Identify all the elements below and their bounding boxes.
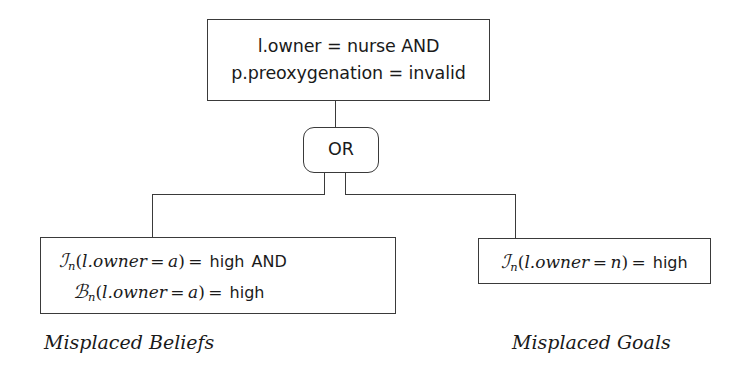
lowner-token-1: l.owner [82, 253, 147, 270]
var-a-1: a [168, 253, 178, 270]
equals-inner-1: = [150, 253, 164, 270]
connector-or-right-stub [345, 173, 346, 195]
connective-and-1: AND [252, 254, 287, 270]
root-condition-box[interactable]: l.owner = nurse AND p.preoxygenation = i… [207, 19, 490, 101]
value-high-1: high [210, 254, 245, 270]
subscript-n-1: n [68, 261, 75, 273]
script-i-symbol: ℐ [59, 251, 68, 270]
caption-misplaced-beliefs: Misplaced Beliefs [44, 333, 214, 352]
paren-close-1: ) [178, 253, 185, 270]
or-gate-label: OR [328, 141, 354, 159]
value-high-3: high [653, 255, 688, 271]
connector-right-horizontal [345, 194, 516, 195]
paren-open-1: ( [75, 253, 82, 270]
root-condition-line-1: l.owner = nurse AND [258, 38, 440, 56]
lowner-token-3: l.owner [524, 254, 589, 271]
paren-close-2: ) [198, 284, 205, 301]
root-condition-line-2: p.preoxygenation = invalid [231, 65, 466, 83]
lowner-token-2: l.owner [102, 284, 167, 301]
equals-outer-1: = [188, 253, 202, 270]
paren-close-3: ) [621, 254, 628, 271]
equals-inner-3: = [593, 254, 607, 271]
var-n-3: n [610, 254, 621, 271]
connector-root-to-or [335, 101, 336, 128]
equals-inner-2: = [170, 284, 184, 301]
connector-right-drop [515, 194, 516, 239]
diagram-canvas: l.owner = nurse AND p.preoxygenation = i… [0, 0, 743, 386]
subscript-n-2: n [88, 292, 95, 304]
or-gate[interactable]: OR [303, 127, 379, 173]
subscript-n-3: n [510, 262, 517, 274]
value-high-2: high [230, 285, 265, 301]
misplaced-goals-box[interactable]: ℐn(l.owner=n)=high [478, 238, 711, 284]
equals-outer-2: = [208, 284, 222, 301]
caption-misplaced-goals: Misplaced Goals [512, 333, 671, 352]
paren-open-3: ( [518, 254, 525, 271]
script-b-symbol: ℬ [73, 282, 88, 301]
equals-outer-3: = [632, 254, 646, 271]
connector-or-left-stub [324, 173, 325, 195]
expression-beliefs-2: ℬn(l.owner=a)=high [73, 282, 265, 301]
expression-beliefs-1: ℐn(l.owner=a)=highAND [59, 251, 287, 270]
connector-left-horizontal [152, 194, 325, 195]
var-a-2: a [188, 284, 198, 301]
paren-open-2: ( [95, 284, 102, 301]
script-i-symbol-right: ℐ [501, 252, 510, 271]
misplaced-beliefs-box[interactable]: ℐn(l.owner=a)=highAND ℬn(l.owner=a)=high [40, 237, 396, 314]
connector-left-drop [152, 194, 153, 238]
expression-goals-1: ℐn(l.owner=n)=high [501, 252, 687, 271]
